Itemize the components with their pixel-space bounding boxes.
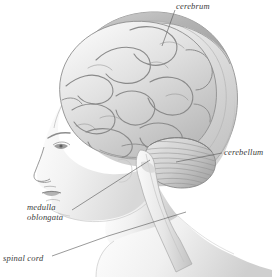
label-spinal-cord: spinal cord — [3, 254, 43, 264]
label-cerebrum: cerebrum — [176, 2, 210, 12]
label-medulla-line2: oblongata — [27, 212, 63, 222]
label-medulla-line1: medulla — [27, 202, 56, 212]
brain-anatomy-illustration — [0, 0, 272, 277]
label-cerebellum: cerebellum — [224, 148, 263, 158]
brain-anatomy-figure: cerebrum cerebellum medulla oblongata sp… — [0, 0, 272, 277]
leader-line-spinal — [52, 236, 108, 256]
label-medulla-oblongata: medulla oblongata — [27, 203, 87, 222]
